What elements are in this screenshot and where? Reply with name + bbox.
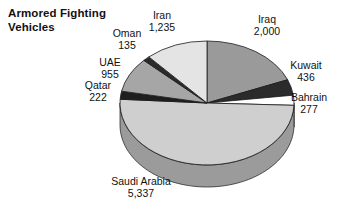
pie-chart-figure: Armored Fighting Vehicles Iran 1,235 Ira… <box>0 0 337 204</box>
slice-label-saudi-arabia-name: Saudi Arabia <box>103 176 179 188</box>
slice-label-kuwait-value: 436 <box>282 72 330 84</box>
slice-label-oman: Oman 135 <box>106 28 148 51</box>
slice-label-saudi-arabia: Saudi Arabia 5,337 <box>103 176 179 199</box>
slice-label-kuwait: Kuwait 436 <box>282 60 330 83</box>
slice-label-saudi-arabia-value: 5,337 <box>103 188 179 200</box>
slice-label-iraq: Iraq 2,000 <box>245 14 289 37</box>
slice-label-qatar-name: Qatar <box>78 80 118 92</box>
slice-label-bahrain-name: Bahrain <box>283 92 335 104</box>
slice-label-kuwait-name: Kuwait <box>282 60 330 72</box>
slice-label-qatar: Qatar 222 <box>78 80 118 103</box>
slice-label-oman-name: Oman <box>106 28 148 40</box>
slice-label-bahrain-value: 277 <box>283 104 335 116</box>
slice-label-iraq-name: Iraq <box>245 14 289 26</box>
slice-label-bahrain: Bahrain 277 <box>283 92 335 115</box>
slice-label-uae-name: UAE <box>92 57 128 69</box>
slice-label-uae: UAE 955 <box>92 57 128 80</box>
slice-label-oman-value: 135 <box>106 40 148 52</box>
slice-label-qatar-value: 222 <box>78 92 118 104</box>
slice-label-iran-name: Iran <box>140 10 184 22</box>
slice-label-iraq-value: 2,000 <box>245 26 289 38</box>
